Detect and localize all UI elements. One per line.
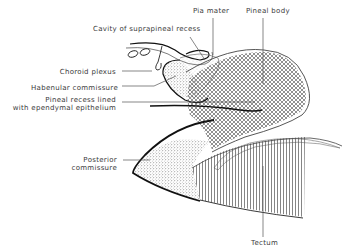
label-tectum: Tectum (251, 239, 278, 247)
label-habenular-commissure: Habenular commissure (31, 84, 118, 92)
label-cavity-suprapineal-recess: Cavity of suprapineal recess (93, 25, 201, 33)
label-pia-mater: Pia mater (193, 7, 229, 15)
pineal-region-diagram (0, 0, 359, 250)
label-pineal-body: Pineal body (246, 7, 290, 15)
label-choroid-plexus: Choroid plexus (60, 68, 116, 76)
tectum-region (192, 137, 342, 218)
choroid-plexus-villi (127, 46, 162, 70)
label-pineal-recess-line1: Pineal recess lined (45, 96, 116, 104)
label-pineal-recess-line2: with ependymal epithelium (13, 104, 116, 112)
label-posterior-commissure-line2: commissure (72, 164, 117, 172)
label-posterior-commissure-line1: Posterior (83, 156, 117, 164)
